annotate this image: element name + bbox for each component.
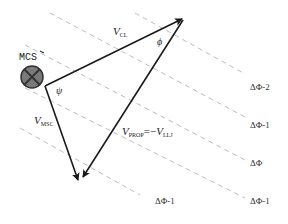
phase-label-minus2: ΔΦ-2 [250, 83, 270, 92]
wind-vector-diagram: MCS VCL VMSC VPROP=−VLLJ ψ ϕ ΔΦ-2 ΔΦ-1 Δ… [0, 0, 288, 224]
v-msc-label: VMSC [34, 115, 53, 127]
phase-lines [20, 13, 245, 198]
psi-angle-label: ψ [56, 86, 62, 96]
phase-line-zero [25, 45, 245, 160]
phase-line-minus1-left [20, 128, 140, 195]
v-cl-label: VCL [113, 26, 127, 38]
phi-angle-label: ϕ [157, 37, 162, 47]
phase-label-minus1-right: ΔΦ-1 [250, 197, 270, 206]
mcs-label: MCS [19, 53, 37, 63]
phase-line-minus1-upper [50, 13, 245, 117]
phase-line-minus2 [135, 13, 245, 74]
v-prop-label: VPROP=−VLLJ [122, 126, 173, 138]
phase-label-minus1-upper: ΔΦ-1 [250, 121, 270, 130]
crossed-circle-icon [21, 66, 43, 88]
vector-v-msc [45, 86, 78, 180]
phase-label-zero: ΔΦ [250, 159, 262, 168]
diagram-canvas [0, 0, 288, 224]
phase-label-minus1-left: ΔΦ-1 [155, 197, 175, 206]
mcs-tick [40, 51, 44, 53]
